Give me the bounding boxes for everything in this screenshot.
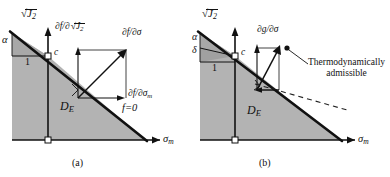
slope-label-alpha-b: α xyxy=(192,32,197,42)
radical-sqrt-vec-a: √J2 xyxy=(70,22,84,33)
admissible-point-marker-b xyxy=(284,45,289,50)
vector-resultant-label-a: ∂f/∂σ xyxy=(122,28,141,38)
panel-b-graphic xyxy=(195,0,390,177)
domain-label-b: DE xyxy=(247,104,261,118)
caption-b: (b) xyxy=(259,157,271,168)
intercept-label-a: c xyxy=(54,48,58,58)
yield-surface-label-a: f=0 xyxy=(122,103,137,114)
intercept-marker-b xyxy=(232,53,238,59)
figure-container: √J2 α 1 c DE f=0 σm ∂f/∂√J2 ∂f/∂σ ∂f/∂σm… xyxy=(0,0,390,177)
admissible-annotation-b: Thermodynamically admissible xyxy=(308,57,385,79)
vector-horizontal-arrowhead-a xyxy=(117,95,125,101)
caption-a: (a) xyxy=(72,157,83,168)
y-axis-label-a: √J2 xyxy=(20,8,36,21)
y-axis-label-b: √J2 xyxy=(201,8,217,21)
y-axis-arrow-a xyxy=(45,27,52,36)
vector-vertical-arrowhead-b xyxy=(254,44,260,53)
run-label-b: 1 xyxy=(212,63,217,73)
radical-sqrt-a: √J2 xyxy=(20,8,36,21)
domain-label-a: DE xyxy=(60,100,74,114)
vector-vertical-arrowhead-a xyxy=(75,47,81,55)
x-axis-arrow-a xyxy=(152,137,160,144)
panel-b: √J2 α δ 1 c DE ∂g/∂σ Thermodynamically a… xyxy=(195,0,390,177)
y-axis-arrow-b xyxy=(232,27,239,36)
x-axis-label-a: σm xyxy=(163,134,174,146)
vector-vertical-label-a: ∂f/∂√J2 xyxy=(55,22,84,33)
radical-sqrt-b: √J2 xyxy=(201,8,217,21)
origin-marker-a xyxy=(45,137,51,143)
intercept-marker-a xyxy=(45,53,51,59)
run-label-a: 1 xyxy=(25,57,30,67)
x-axis-label-b: σm xyxy=(358,134,369,146)
vector-resultant-label-b: ∂g/∂σ xyxy=(257,25,278,35)
panel-a-graphic xyxy=(0,0,195,177)
vector-resultant-a xyxy=(78,54,122,98)
slope-label-delta-b: δ xyxy=(192,45,197,55)
slope-label-a: α xyxy=(2,35,8,46)
panel-a: √J2 α 1 c DE f=0 σm ∂f/∂√J2 ∂f/∂σ ∂f/∂σm… xyxy=(0,0,195,177)
intercept-label-b: c xyxy=(241,48,245,58)
annotation-leader-line-b xyxy=(289,50,308,64)
vector-horizontal-label-a: ∂f/∂σm xyxy=(128,89,152,100)
origin-marker-b xyxy=(232,137,238,143)
x-axis-arrow-b xyxy=(347,137,355,144)
